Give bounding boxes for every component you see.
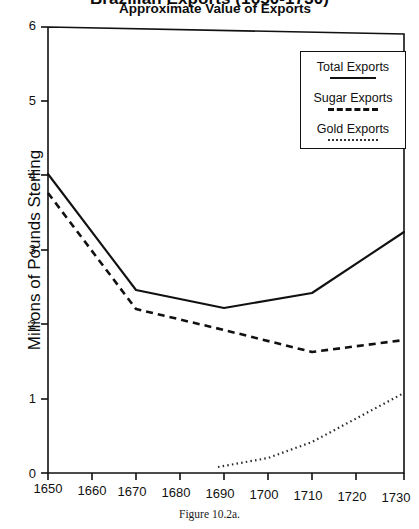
chart-legend: Total Exports Sugar Exports Gold Exports [300,51,406,149]
dotted-line-swatch-icon [328,139,378,144]
legend-label-gold-exports: Gold Exports [301,122,405,136]
chart-figure: Brazilian Exports (1650-1730) Approximat… [0,0,419,529]
series-line-gold-exports [218,393,404,467]
figure-caption: Figure 10.2a. [0,508,419,520]
dashed-line-swatch-icon [328,108,378,114]
series-line-sugar-exports [48,193,404,352]
x-axis-ticks [48,473,404,480]
solid-line-swatch-icon [330,77,376,82]
legend-entry-sugar-exports: Sugar Exports [301,91,405,114]
legend-label-sugar-exports: Sugar Exports [301,91,405,105]
legend-entry-gold-exports: Gold Exports [301,122,405,144]
legend-label-total-exports: Total Exports [301,60,405,74]
y-axis-ticks [41,27,48,473]
series-line-total-exports [48,174,404,308]
legend-entry-total-exports: Total Exports [301,60,405,82]
